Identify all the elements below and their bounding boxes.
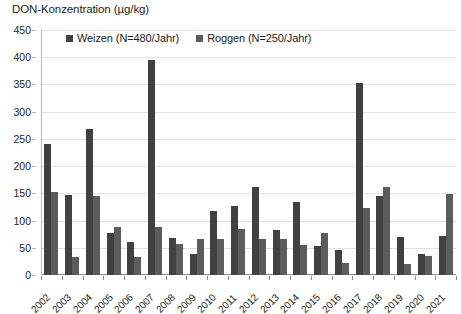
bar-group — [41, 30, 62, 275]
x-tick-mark — [124, 276, 125, 280]
x-tick-label: 2020 — [403, 292, 426, 314]
x-tick-mark — [166, 276, 167, 280]
x-tick-label: 2011 — [216, 292, 238, 314]
bar-group — [373, 30, 394, 275]
bar-roggen — [197, 239, 204, 275]
x-tick-label: 2021 — [424, 292, 447, 314]
x-tick-mark — [332, 276, 333, 280]
bar-group — [166, 30, 187, 275]
x-tick-mark — [352, 276, 353, 280]
don-concentration-bar-chart: DON-Konzentration (µg/kg) Weizen (N=480/… — [0, 0, 461, 314]
x-tick-label: 2002 — [29, 292, 52, 314]
bar-group — [332, 30, 353, 275]
bar-roggen — [134, 257, 141, 275]
x-tick-label: 2014 — [278, 292, 301, 314]
x-tick-label: 2005 — [92, 292, 115, 314]
y-tick-mark — [32, 57, 36, 58]
bar-group — [311, 30, 332, 275]
x-tick-mark — [103, 276, 104, 280]
x-tick-mark — [415, 276, 416, 280]
x-tick-label: 2006 — [112, 292, 135, 314]
y-tick-label: 100 — [13, 215, 31, 227]
bar-group — [83, 30, 104, 275]
bar-roggen — [259, 239, 266, 275]
y-tick-label: 0 — [25, 269, 31, 281]
x-axis: 2002200320042005200620072008200920102011… — [41, 276, 456, 314]
bar-weizen — [86, 129, 93, 275]
bar-roggen — [51, 192, 58, 275]
x-tick-label: 2012 — [237, 292, 260, 314]
bar-weizen — [210, 211, 217, 275]
y-tick-label: 250 — [13, 133, 31, 145]
bar-group — [352, 30, 373, 275]
bar-group — [415, 30, 436, 275]
bar-weizen — [397, 237, 404, 275]
bar-roggen — [404, 264, 411, 275]
x-tick-mark — [62, 276, 63, 280]
bar-roggen — [425, 256, 432, 275]
bar-group — [186, 30, 207, 275]
x-tick-label: 2004 — [71, 292, 94, 314]
y-axis: 050100150200250300350400450 — [0, 30, 36, 275]
y-tick-mark — [32, 275, 36, 276]
x-tick-label: 2013 — [258, 292, 281, 314]
y-tick-label: 150 — [13, 187, 31, 199]
bar-weizen — [169, 238, 176, 275]
y-tick-label: 200 — [13, 160, 31, 172]
x-tick-mark — [456, 276, 457, 280]
bar-roggen — [446, 194, 453, 275]
bar-roggen — [93, 196, 100, 275]
y-tick-label: 50 — [19, 242, 31, 254]
bar-weizen — [148, 60, 155, 275]
bar-roggen — [363, 208, 370, 275]
bar-weizen — [356, 83, 363, 275]
bar-roggen — [72, 257, 79, 275]
x-tick-label: 2015 — [299, 292, 322, 314]
bar-group — [103, 30, 124, 275]
y-tick-label: 350 — [13, 78, 31, 90]
y-tick-mark — [32, 139, 36, 140]
bar-group — [207, 30, 228, 275]
bar-roggen — [383, 187, 390, 275]
x-tick-mark — [228, 276, 229, 280]
y-tick-mark — [32, 221, 36, 222]
bar-roggen — [238, 229, 245, 275]
x-tick-mark — [269, 276, 270, 280]
x-tick-mark — [249, 276, 250, 280]
y-tick-label: 450 — [13, 24, 31, 36]
x-tick-mark — [41, 276, 42, 280]
y-tick-mark — [32, 30, 36, 31]
bar-group — [228, 30, 249, 275]
y-tick-mark — [32, 166, 36, 167]
y-tick-mark — [32, 84, 36, 85]
bar-roggen — [114, 227, 121, 275]
bar-weizen — [314, 246, 321, 275]
bar-weizen — [231, 206, 238, 275]
x-tick-label: 2010 — [195, 292, 218, 314]
bar-weizen — [190, 254, 197, 275]
y-tick-mark — [32, 112, 36, 113]
bar-weizen — [127, 242, 134, 275]
x-tick-mark — [145, 276, 146, 280]
bar-weizen — [376, 196, 383, 275]
y-tick-mark — [32, 193, 36, 194]
bar-group — [124, 30, 145, 275]
bar-weizen — [65, 195, 72, 275]
bar-roggen — [176, 244, 183, 275]
bars-layer — [41, 30, 456, 275]
bar-group — [290, 30, 311, 275]
bar-weizen — [293, 202, 300, 276]
bar-weizen — [273, 230, 280, 275]
x-tick-mark — [394, 276, 395, 280]
bar-group — [62, 30, 83, 275]
bar-group — [269, 30, 290, 275]
y-tick-label: 300 — [13, 106, 31, 118]
bar-weizen — [418, 254, 425, 275]
bar-roggen — [321, 233, 328, 275]
bar-roggen — [155, 227, 162, 275]
bar-weizen — [335, 250, 342, 275]
bar-roggen — [300, 245, 307, 275]
x-tick-mark — [311, 276, 312, 280]
x-tick-mark — [435, 276, 436, 280]
bar-weizen — [439, 236, 446, 275]
